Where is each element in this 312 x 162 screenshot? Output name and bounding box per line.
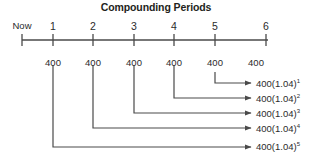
period-label: 1 — [50, 20, 56, 32]
period-label: 2 — [90, 20, 96, 32]
period-label: Now — [12, 20, 31, 31]
formula-base: 400(1.04) — [256, 108, 297, 119]
future-value-formula: 400(1.04)3 — [256, 109, 300, 119]
formula-exponent: 5 — [297, 141, 300, 147]
payment-amount: 400 — [45, 57, 61, 68]
bracket-arrow — [134, 65, 251, 113]
period-label: 6 — [263, 20, 269, 32]
bracket-arrow — [215, 72, 251, 83]
future-value-formula: 400(1.04)2 — [256, 94, 300, 104]
timeline-axis — [22, 34, 268, 46]
payment-amount: 400 — [166, 57, 182, 68]
formula-exponent: 4 — [297, 123, 300, 129]
period-label: 3 — [131, 20, 137, 32]
future-value-formula: 400(1.04)1 — [256, 79, 300, 89]
future-value-formula: 400(1.04)4 — [256, 124, 300, 134]
payment-amount: 400 — [85, 57, 101, 68]
formula-exponent: 1 — [297, 78, 300, 84]
bracket-arrow — [53, 65, 251, 147]
period-label: 4 — [171, 20, 177, 32]
formula-base: 400(1.04) — [256, 123, 297, 134]
formula-exponent: 3 — [297, 108, 300, 114]
payment-amount: 400 — [248, 57, 264, 68]
bracket-arrow — [93, 65, 251, 128]
compounding-periods-diagram: Compounding Periods Now123456 4004004004… — [0, 0, 312, 162]
formula-base: 400(1.04) — [256, 141, 297, 152]
formula-base: 400(1.04) — [256, 78, 297, 89]
period-label: 5 — [212, 20, 218, 32]
future-value-formula: 400(1.04)5 — [256, 142, 300, 152]
bracket-arrows — [53, 65, 251, 147]
formula-base: 400(1.04) — [256, 93, 297, 104]
bracket-arrow — [174, 65, 251, 98]
formula-exponent: 2 — [297, 93, 300, 99]
payment-amount: 400 — [207, 57, 223, 68]
payment-amount: 400 — [126, 57, 142, 68]
